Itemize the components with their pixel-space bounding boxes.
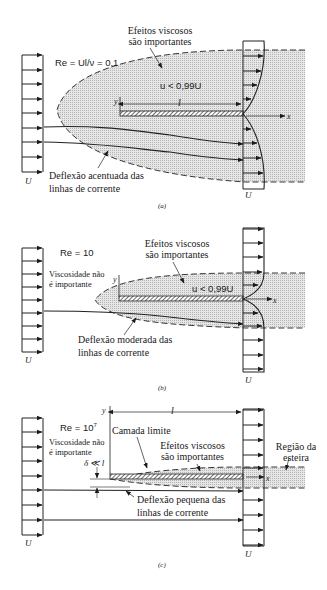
plate-length-a: l bbox=[178, 97, 181, 108]
upstream-velocity-c: U bbox=[25, 538, 32, 549]
caption-b: (b) bbox=[158, 384, 166, 392]
viscous-label-c: Efeitos viscosos são importantes bbox=[155, 440, 230, 462]
deflection-label-b-line1: Deflexão moderada das bbox=[78, 334, 172, 345]
flat-plate-b bbox=[119, 296, 243, 301]
upstream-velocity-b: U bbox=[25, 355, 32, 366]
y-axis-label-a: y bbox=[114, 96, 118, 107]
upstream-profile-b bbox=[22, 248, 43, 352]
reynolds-label-a: Re = Ul/ν = 0,1 bbox=[55, 57, 118, 68]
deflection-label-b-line2: linhas de corrente bbox=[78, 347, 172, 358]
caption-a: (a) bbox=[158, 202, 166, 210]
flat-plate-c bbox=[110, 474, 243, 479]
deflection-label-c-line2: linhas de corrente bbox=[137, 507, 225, 518]
wake-label-c-line2: esteira bbox=[268, 452, 324, 463]
y-axis-label-b: y bbox=[113, 274, 117, 285]
velocity-condition-b: u < 0,99U bbox=[192, 283, 233, 294]
deflection-label-c: Deflexão pequena das linhas de corrente bbox=[137, 494, 225, 518]
inviscid-label-c-line1: Viscosidade não bbox=[49, 437, 104, 447]
deflection-label-c-line1: Deflexão pequena das bbox=[137, 494, 225, 505]
x-axis-label-b: x bbox=[273, 295, 277, 306]
caption-c: (c) bbox=[158, 561, 166, 569]
x-axis-label-a: x bbox=[287, 111, 291, 122]
thickness-label-c: δ ≪ l bbox=[84, 458, 104, 469]
deflection-label-a-line2: linhas de corrente bbox=[49, 183, 144, 194]
boundary-layer-label-c: Camada limite bbox=[112, 425, 171, 436]
reynolds-label-c: Re = 107 bbox=[60, 420, 97, 433]
inviscid-label-b-line2: é importante bbox=[49, 279, 104, 289]
viscous-label-b: Efeitos viscosos são importantes bbox=[142, 238, 212, 260]
upstream-velocity-a: U bbox=[25, 176, 32, 187]
upstream-profile-a bbox=[22, 55, 43, 172]
y-axis-label-c: y bbox=[102, 405, 106, 416]
velocity-condition-a: u < 0,99U bbox=[160, 80, 201, 91]
deflection-label-a: Deflexão acentuada das linhas de corrent… bbox=[49, 170, 144, 194]
downstream-velocity-c: U bbox=[245, 549, 252, 560]
deflection-label-b: Deflexão moderada das linhas de corrente bbox=[78, 334, 172, 358]
viscous-label-c-line1: Efeitos viscosos bbox=[155, 440, 230, 451]
reynolds-label-b: Re = 10 bbox=[60, 247, 94, 258]
x-axis-label-c: x bbox=[266, 473, 270, 484]
streamline-c-1 bbox=[44, 490, 243, 491]
viscous-label-b-line2: são importantes bbox=[142, 249, 212, 260]
wake-region-label-c: Região da esteira bbox=[268, 441, 324, 463]
upstream-profile-c bbox=[22, 418, 43, 535]
viscous-label-a-line2: são importantes bbox=[125, 36, 195, 47]
wake-label-c-line1: Região da bbox=[268, 441, 324, 452]
downstream-velocity-b: U bbox=[245, 375, 252, 386]
reynolds-base-c: Re = 10 bbox=[60, 422, 94, 433]
inviscid-label-b-line1: Viscosidade não bbox=[49, 269, 104, 279]
inviscid-label-b: Viscosidade não é importante bbox=[49, 269, 104, 289]
viscous-label-b-line1: Efeitos viscosos bbox=[142, 238, 212, 249]
downstream-velocity-a: U bbox=[245, 190, 252, 201]
flat-plate-a bbox=[120, 111, 243, 116]
viscous-label-a-line1: Efeitos viscosos bbox=[125, 25, 195, 36]
viscous-label-c-line2: são importantes bbox=[155, 451, 230, 462]
deflection-label-a-line1: Deflexão acentuada das bbox=[49, 170, 144, 181]
viscous-label-a: Efeitos viscosos são importantes bbox=[125, 25, 195, 47]
reynolds-exponent-c: 7 bbox=[94, 422, 97, 428]
inviscid-label-c-line2: é importante bbox=[49, 447, 104, 457]
plate-length-c: l bbox=[171, 405, 174, 416]
inviscid-label-c: Viscosidade não é importante bbox=[49, 437, 104, 457]
